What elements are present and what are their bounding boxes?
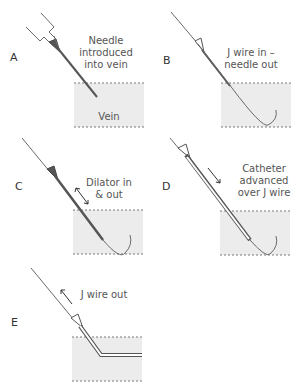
caption-d-line3: over J wire bbox=[238, 187, 291, 198]
caption-a-line2: introduced bbox=[79, 47, 133, 58]
step-letter-b: B bbox=[163, 54, 171, 67]
caption-c-line1: Dilator in bbox=[86, 177, 132, 188]
caption-b-line2: needle out bbox=[224, 59, 278, 70]
j-wire-proximal bbox=[171, 12, 198, 44]
vein-e bbox=[72, 337, 142, 381]
step-e: E J wire out bbox=[11, 268, 142, 381]
step-a: A Vein Needle introduced into vein bbox=[10, 13, 144, 127]
in-out-arrow-icon bbox=[75, 188, 88, 204]
step-c: C Dilator in & out bbox=[15, 138, 143, 255]
syringe-icon bbox=[26, 13, 60, 52]
vein-d bbox=[220, 211, 290, 255]
j-wire-withdrawn bbox=[31, 268, 74, 320]
step-letter-c: C bbox=[15, 180, 23, 193]
seldinger-diagram: A Vein Needle introduced into vein B J w… bbox=[0, 0, 302, 386]
j-wire-proximal bbox=[22, 138, 50, 172]
advance-arrow-icon bbox=[208, 168, 220, 183]
withdraw-arrow-icon bbox=[61, 290, 72, 304]
step-b: B J wire in – needle out bbox=[163, 12, 291, 127]
caption-d-line2: advanced bbox=[240, 175, 289, 186]
step-letter-d: D bbox=[162, 180, 170, 193]
caption-b-line1: J wire in – bbox=[226, 47, 275, 58]
caption-d-line1: Catheter bbox=[242, 163, 287, 174]
vein-b bbox=[221, 83, 291, 127]
vein-c bbox=[73, 210, 143, 254]
step-letter-e: E bbox=[11, 316, 18, 329]
caption-a-line3: into vein bbox=[84, 59, 128, 70]
vein-label: Vein bbox=[98, 111, 119, 122]
step-d: D Catheter advanced over J wire bbox=[162, 138, 290, 255]
caption-e-line1: J wire out bbox=[80, 289, 128, 300]
step-letter-a: A bbox=[10, 51, 18, 64]
caption-c-line2: & out bbox=[95, 189, 122, 200]
caption-a-line1: Needle bbox=[88, 35, 123, 46]
